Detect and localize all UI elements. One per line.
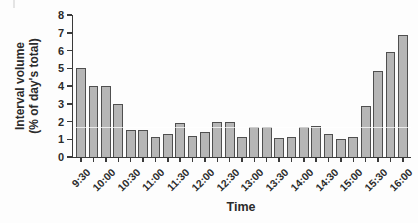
bar-12:00 xyxy=(200,132,210,157)
y-axis-tick-label: 4 xyxy=(46,79,64,93)
x-axis-tick xyxy=(278,158,280,162)
x-axis-tick-label: 14:00 xyxy=(288,166,315,193)
bar-chart-figure: Interval volume (% of day's total) 01234… xyxy=(0,0,418,223)
y-axis-tick xyxy=(67,156,72,158)
y-axis-tick xyxy=(67,14,72,16)
bar-13:15 xyxy=(262,127,272,157)
x-axis-tick-label: 16:00 xyxy=(387,166,414,193)
x-axis-tick xyxy=(291,158,293,162)
bar-16:00 xyxy=(398,35,408,157)
x-axis-tick xyxy=(254,158,256,162)
bar-14:00 xyxy=(299,127,309,157)
y-axis-title-line2: (% of day's total) xyxy=(27,38,41,134)
bar-13:45 xyxy=(287,137,297,157)
x-axis-tick-label: 11:30 xyxy=(165,166,192,193)
bar-13:00 xyxy=(249,127,259,157)
x-axis-tick xyxy=(365,158,367,162)
bar-15:30 xyxy=(373,71,383,157)
bar-14:45 xyxy=(336,139,346,157)
y-axis-tick-label: 3 xyxy=(46,97,64,111)
bar-10:30 xyxy=(126,130,136,157)
x-axis-tick xyxy=(142,158,144,162)
y-axis-tick xyxy=(67,103,72,105)
bar-14:30 xyxy=(324,134,334,157)
x-axis-tick xyxy=(241,158,243,162)
y-axis-tick-label: 6 xyxy=(46,44,64,58)
bar-15:45 xyxy=(386,52,396,157)
scan-streak-artifact xyxy=(73,127,411,129)
y-axis-tick xyxy=(67,32,72,34)
x-axis-tick xyxy=(80,158,82,162)
x-axis-tick-label: 15:00 xyxy=(337,166,364,193)
x-axis-tick-label: 13:00 xyxy=(238,166,265,193)
bar-10:00 xyxy=(101,86,111,157)
bar-10:45 xyxy=(138,130,148,157)
y-axis-tick xyxy=(67,85,72,87)
x-axis-tick-label: 12:30 xyxy=(214,166,241,193)
x-axis-tick xyxy=(155,158,157,162)
x-axis-tick xyxy=(105,158,107,162)
y-axis-tick-label: 2 xyxy=(46,115,64,129)
y-axis-tick-label: 5 xyxy=(46,61,64,75)
x-axis-tick-label: 9:30 xyxy=(69,166,92,189)
y-axis-tick-label: 1 xyxy=(46,132,64,146)
y-axis-title-line1: Interval volume xyxy=(13,38,27,134)
bar-10:15 xyxy=(113,104,123,157)
x-axis-tick xyxy=(118,158,120,162)
x-axis-tick xyxy=(390,158,392,162)
bar-14:15 xyxy=(311,126,321,157)
bar-12:45 xyxy=(237,137,247,157)
x-axis-title: Time xyxy=(227,200,256,214)
x-axis-tick xyxy=(340,158,342,162)
y-axis-tick-label: 0 xyxy=(46,150,64,164)
x-axis-tick xyxy=(93,158,95,162)
x-axis-tick-label: 11:00 xyxy=(140,166,167,193)
y-axis-tick xyxy=(67,50,72,52)
x-axis-tick xyxy=(192,158,194,162)
bar-11:30 xyxy=(175,123,185,157)
bar-11:15 xyxy=(163,134,173,157)
bar-9:30 xyxy=(76,68,86,157)
x-axis-tick-label: 10:30 xyxy=(115,166,142,193)
x-axis-tick-label: 14:30 xyxy=(313,166,340,193)
x-axis-tick xyxy=(328,158,330,162)
bar-15:00 xyxy=(348,137,358,157)
scan-artifact-mark xyxy=(13,0,15,8)
x-axis-tick xyxy=(167,158,169,162)
x-axis-tick xyxy=(315,158,317,162)
y-axis-tick xyxy=(67,68,72,70)
x-axis-tick xyxy=(266,158,268,162)
y-axis-tick-label: 8 xyxy=(46,8,64,22)
y-axis-tick-label: 7 xyxy=(46,26,64,40)
x-axis-tick xyxy=(204,158,206,162)
y-axis-tick xyxy=(67,121,72,123)
bar-13:30 xyxy=(274,138,284,157)
y-axis-title: Interval volume (% of day's total) xyxy=(13,38,42,134)
x-axis-tick xyxy=(377,158,379,162)
x-axis-tick xyxy=(179,158,181,162)
plot-area: 0123456789:3010:0010:3011:0011:3012:0012… xyxy=(72,15,411,158)
x-axis-tick xyxy=(130,158,132,162)
bar-11:45 xyxy=(188,136,198,157)
x-axis-tick-label: 13:30 xyxy=(263,166,290,193)
bar-11:00 xyxy=(151,137,161,157)
x-axis-tick xyxy=(402,158,404,162)
x-axis-tick-label: 15:30 xyxy=(362,166,389,193)
y-axis-tick xyxy=(67,139,72,141)
bar-15:15 xyxy=(361,106,371,157)
x-axis-tick-label: 12:00 xyxy=(189,166,216,193)
x-axis-tick xyxy=(229,158,231,162)
x-axis-tick-label: 10:00 xyxy=(90,166,117,193)
bar-9:45 xyxy=(89,86,99,157)
x-axis-tick xyxy=(303,158,305,162)
x-axis-tick xyxy=(217,158,219,162)
x-axis-tick xyxy=(353,158,355,162)
